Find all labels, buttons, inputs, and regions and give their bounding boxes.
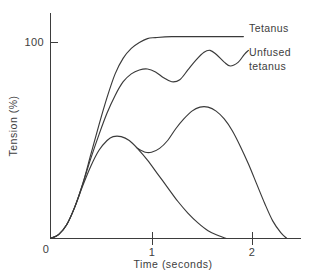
chart-plot-area: 100 0 1 2 Tension (%) Time (seconds) Tet… [0,0,331,270]
series-label-unfused-line1: Unfused [249,46,291,58]
y-tick-label-100: 100 [24,36,44,48]
x-axis-title: Time (seconds) [134,258,213,270]
x-tick-label-1: 1 [149,246,156,258]
tension-vs-time-chart: 100 0 1 2 Tension (%) Time (seconds) Tet… [0,0,331,270]
curve-tetanus [51,37,244,239]
y-axis-title: Tension (%) [7,96,19,157]
curve-single-twitch [51,136,227,238]
x-tick-label-2: 2 [249,246,256,258]
curve-unfused-tetanus [51,50,249,238]
series-label-unfused-line2: tetanus [249,60,286,72]
x-tick-label-0: 0 [43,243,50,255]
series-label-tetanus: Tetanus [249,22,289,34]
curve-summation [137,107,286,239]
